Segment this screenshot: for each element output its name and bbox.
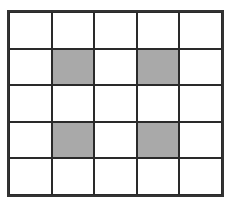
grid-cell xyxy=(94,122,137,159)
grid-cell xyxy=(137,158,180,195)
grid-cell-shaded xyxy=(52,49,95,86)
grid-cell xyxy=(179,49,222,86)
grid-cell xyxy=(9,85,52,122)
grid-cell xyxy=(9,12,52,49)
grid-cell xyxy=(9,122,52,159)
grid-cell xyxy=(52,12,95,49)
grid-cell xyxy=(137,85,180,122)
grid-cell xyxy=(94,49,137,86)
grid-cell xyxy=(94,12,137,49)
grid-cell-shaded xyxy=(137,122,180,159)
grid-cell xyxy=(94,158,137,195)
grid-cell xyxy=(179,12,222,49)
grid-cell xyxy=(52,85,95,122)
grid-cell xyxy=(137,12,180,49)
grid-cell xyxy=(179,85,222,122)
grid-cell xyxy=(9,158,52,195)
grid-diagram xyxy=(7,10,224,197)
grid-cell xyxy=(179,158,222,195)
grid-cell xyxy=(9,49,52,86)
grid-cell-shaded xyxy=(52,122,95,159)
grid-cell xyxy=(179,122,222,159)
grid-cell-shaded xyxy=(137,49,180,86)
grid-cell xyxy=(52,158,95,195)
grid-cell xyxy=(94,85,137,122)
